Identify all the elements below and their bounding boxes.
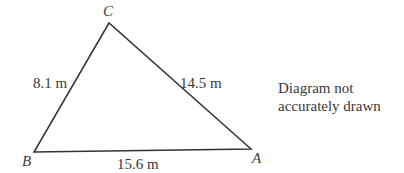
- accuracy-note-line2: accurately drawn: [278, 97, 381, 115]
- triangle-diagram: C B A 8.1 m 14.5 m 15.6 m Diagram not ac…: [0, 0, 404, 173]
- accuracy-note-line1: Diagram not: [278, 79, 381, 97]
- vertex-label-c: C: [103, 4, 113, 19]
- vertex-label-b: B: [22, 154, 31, 169]
- side-length-bc: 8.1 m: [33, 76, 67, 91]
- side-length-ba: 15.6 m: [117, 157, 159, 172]
- side-length-ca: 14.5 m: [180, 76, 222, 91]
- accuracy-note: Diagram not accurately drawn: [278, 79, 381, 115]
- vertex-label-a: A: [252, 151, 261, 166]
